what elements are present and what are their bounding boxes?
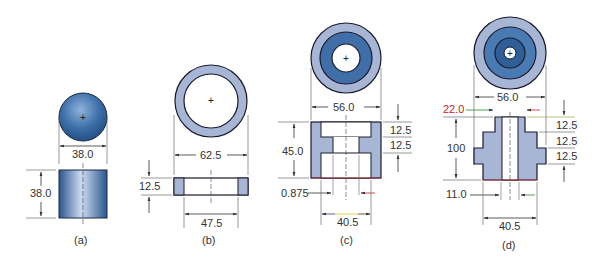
part-b: +: [141, 65, 248, 228]
dim-d-bore: 11.0: [446, 189, 467, 200]
dim-d-top-width: 22.0: [443, 104, 464, 115]
dim-a-height: 38.0: [30, 188, 51, 199]
dim-d-step3: 12.5: [556, 151, 577, 162]
dim-d-height: 100: [447, 143, 465, 154]
dim-c-bottom-diameter: 40.5: [337, 217, 358, 228]
dim-c-wall: 0.875: [281, 188, 309, 199]
caption-c: (c): [340, 235, 353, 246]
dim-c-step1: 12.5: [390, 125, 411, 136]
dim-a-diameter: 38.0: [72, 149, 93, 160]
dim-d-bottom-diameter: 40.5: [499, 221, 520, 232]
center-mark-icon: +: [208, 95, 214, 106]
center-mark-icon: +: [80, 112, 86, 123]
dim-c-top-diameter: 56.0: [333, 102, 354, 113]
caption-b: (b): [202, 235, 215, 246]
dim-d-step2: 12.5: [556, 136, 577, 147]
caption-d: (d): [502, 240, 515, 251]
part-a: +: [26, 93, 107, 226]
caption-a: (a): [74, 235, 87, 246]
dim-b-inner-diameter: 47.5: [201, 218, 222, 229]
dim-b-thickness: 12.5: [139, 181, 160, 192]
engineering-figure: + +: [0, 0, 600, 265]
dim-c-height: 45.0: [282, 146, 303, 157]
center-mark-icon: +: [507, 48, 513, 59]
dim-d-step1: 12.5: [556, 120, 577, 131]
dim-d-top-diameter: 56.0: [497, 92, 518, 103]
dim-c-step2: 12.5: [390, 140, 411, 151]
dim-b-outer-diameter: 62.5: [200, 150, 221, 161]
center-mark-icon: +: [343, 53, 349, 64]
